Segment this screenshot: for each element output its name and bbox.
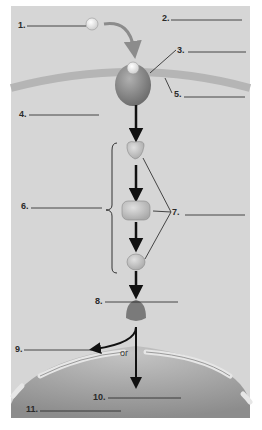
relay-molecule-2 <box>122 201 150 220</box>
signaling-diagram: or 1. 2. 3. 4. 5. 6. 7. 8. 9. 10. <box>0 0 262 430</box>
svg-text:10.: 10. <box>93 392 106 402</box>
svg-text:6.: 6. <box>21 201 29 211</box>
svg-text:9.: 9. <box>15 344 23 354</box>
svg-text:4.: 4. <box>19 109 27 119</box>
svg-text:11.: 11. <box>26 404 38 414</box>
bound-ligand <box>127 62 139 74</box>
svg-text:7.: 7. <box>172 207 180 217</box>
relay-molecule-3 <box>127 254 145 270</box>
svg-text:1.: 1. <box>18 20 26 30</box>
svg-text:8.: 8. <box>95 296 103 306</box>
or-text: or <box>120 348 128 358</box>
svg-text:5.: 5. <box>174 89 182 99</box>
svg-text:2.: 2. <box>162 13 170 23</box>
svg-text:3.: 3. <box>177 45 185 55</box>
signal-molecule <box>86 18 98 30</box>
